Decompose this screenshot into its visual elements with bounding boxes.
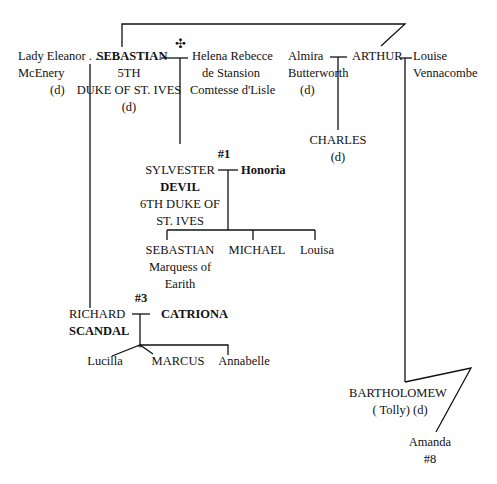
marcus-name: MARCUS (152, 353, 205, 369)
helena-surname: de Stansion (202, 65, 260, 81)
amanda-name: Amanda (409, 434, 451, 450)
sebastian-5th-title-2: DUKE OF ST. IVES (77, 82, 182, 98)
arthur-name: ARTHUR (352, 48, 403, 64)
charles-deceased: (d) (331, 149, 346, 165)
sylvester-title-2: ST. IVES (156, 213, 204, 229)
richard-surname: SCANDAL (69, 323, 129, 339)
lucilla-name: Lucilla (87, 353, 122, 369)
family-tree: Lady Eleanor . . . McEnery (d) SEBASTIAN… (0, 0, 497, 484)
name-line: Lady Eleanor . . . (18, 49, 104, 63)
sylvester-title-1: 6TH DUKE OF (140, 196, 220, 212)
sebastian-5th-name: SEBASTIAN (97, 48, 168, 64)
catriona-name: CATRIONA (161, 306, 228, 322)
almira-surname: Butterworth (288, 65, 348, 81)
helena-name: Helena Rebecce (192, 48, 273, 64)
richard-name: RICHARD (69, 306, 125, 322)
louise-surname: Vennacombe (413, 65, 478, 81)
michael-name: MICHAEL (229, 242, 286, 258)
amanda-book-number: #8 (424, 451, 437, 467)
almira-deceased: (d) (300, 82, 315, 98)
twins-marker-icon: * (138, 340, 143, 356)
lady-eleanor-name: Lady Eleanor . . . (18, 48, 104, 64)
sebastian-marquess-title-1: Marquess of (149, 259, 211, 275)
sylvester-book-number: #1 (218, 146, 231, 162)
sylvester-surname: DEVIL (160, 179, 200, 195)
bartholomew-name: BARTHOLOMEW (349, 385, 447, 401)
sylvester-name: SYLVESTER (145, 162, 215, 178)
lady-eleanor-deceased: (d) (50, 82, 65, 98)
richard-book-number: #3 (135, 290, 148, 306)
almira-name: Almira (288, 48, 323, 64)
annabelle-name: Annabelle (218, 353, 269, 369)
louise-name: Louise (413, 48, 447, 64)
sebastian-marquess-name: SEBASTIAN (146, 242, 215, 258)
honoria-name: Honoria (241, 162, 285, 178)
bartholomew-nickname: ( Tolly) (d) (372, 402, 427, 418)
lady-eleanor-surname: McEnery (18, 65, 65, 81)
sebastian-5th-title-1: 5TH (118, 65, 141, 81)
marriage-cross-icon: ✣ (175, 36, 186, 52)
helena-title: Comtesse d'Lisle (190, 82, 275, 98)
charles-name: CHARLES (310, 132, 367, 148)
sebastian-5th-deceased: (d) (122, 99, 137, 115)
sebastian-marquess-title-2: Earith (165, 276, 196, 292)
louisa-name: Louisa (300, 242, 334, 258)
